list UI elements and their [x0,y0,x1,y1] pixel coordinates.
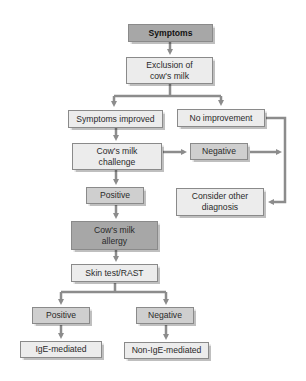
node-symptoms: Symptoms [128,24,213,42]
node-negative-challenge: Negative [190,143,248,160]
node-negative-skin: Negative [136,307,194,324]
node-skin-test: Skin test/RAST [71,264,158,282]
node-exclusion: Exclusion of cow's milk [126,57,213,84]
node-milk-challenge: Cow's milk challenge [72,143,162,170]
node-ige-mediated: IgE-mediated [20,341,102,358]
node-positive-challenge: Positive [86,187,144,204]
node-no-improvement: No improvement [177,109,265,127]
node-positive-skin: Positive [32,307,90,324]
node-consider-other: Consider other diagnosis [176,188,264,216]
node-symptoms-improved: Symptoms improved [68,110,163,128]
node-non-ige-mediated: Non-IgE-mediated [124,342,209,359]
node-milk-allergy: Cow's milk allergy [71,221,158,250]
